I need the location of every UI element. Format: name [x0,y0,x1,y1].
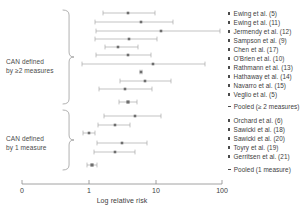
pooled-estimate-marker [126,100,129,103]
pooled-marker-icon [228,169,231,170]
group-brace [63,10,74,104]
square-bullet-icon [228,146,230,148]
legend-item-label: Pooled (≥ 2 measures) [234,103,300,110]
forest-row [120,79,171,84]
legend-item-label: Jermendy et al. (12) [234,28,292,35]
forest-row [95,20,173,25]
forest-row [104,114,161,119]
axis-tick-label: 100 [212,187,232,194]
point-estimate-marker [121,142,124,145]
legend-item-study: Toyry et al. (19) [228,144,278,153]
legend-item-study: O'Brien et al. (10) [228,55,284,64]
legend-item-label: Pooled (1 measure) [234,166,291,173]
point-estimate-marker [124,88,127,91]
group-brace [63,110,74,170]
legend-item-pooled: Pooled (≥ 2 measures) [228,103,299,112]
forest-row [95,37,157,42]
legend-item-pooled: Pooled (1 measure) [228,166,291,175]
legend-item-study: Jermendy et al. (12) [228,28,291,37]
forest-row [103,11,155,16]
legend-item-study: Ewing et al. (5) [228,10,277,19]
legend-item-study: Veglio et al. (5) [228,91,277,100]
group-label-can-2-measures: CAN defined by ≥2 measures [6,58,54,75]
point-estimate-marker [140,71,143,74]
point-estimate-marker [144,80,147,83]
pooled-estimate-marker [90,163,93,166]
x-axis-title: Log relative risk [0,197,244,204]
forest-row [97,141,147,146]
pooled-marker-icon [228,106,231,107]
axis-tick-label: 1 [79,187,99,194]
square-bullet-icon [228,39,230,41]
legend-item-label: Gerritsen et al. (21) [234,153,290,160]
forest-row [82,62,205,67]
legend-item-label: Ewing et al. (11) [234,19,281,26]
forest-row [105,45,138,50]
point-estimate-marker [127,54,130,57]
forest-row [83,131,95,136]
square-bullet-icon [228,57,230,59]
x-axis [22,180,222,184]
legend-item-label: Orchard et al. (6) [234,117,283,124]
legend-item-label: Veglio et al. (5) [234,91,277,98]
axis-tick-label: 10 [146,187,166,194]
point-estimate-marker [114,151,117,154]
legend-item-study: Gerritsen et al. (21) [228,153,290,162]
forest-row [99,87,152,92]
point-estimate-marker [88,132,91,135]
point-estimate-marker [134,115,137,118]
forest-rows [82,11,220,168]
square-bullet-icon [228,84,230,86]
legend-item-label: Sawicki et al. (18) [234,126,285,133]
forest-row [98,123,130,128]
point-estimate-marker [140,21,143,24]
legend-item-study: Sawicki et al. (20) [228,135,285,144]
legend-item-label: Navarro et al. (15) [234,82,286,89]
square-bullet-icon [228,119,230,121]
legend-item-label: Sampson et al. (9) [234,37,287,44]
legend-item-study: Chen et al. (17) [228,46,278,55]
forest-row [94,150,135,155]
square-bullet-icon [228,137,230,139]
legend-item-study: Sampson et al. (9) [228,37,287,46]
square-bullet-icon [228,21,230,23]
legend-item-study: Sawicki et al. (18) [228,126,285,135]
legend-item-study: Hathaway et al. (14) [228,73,292,82]
point-estimate-marker [128,38,131,41]
legend-item-label: O'Brien et al. (10) [234,55,285,62]
square-bullet-icon [228,30,230,32]
forest-row [96,29,220,34]
square-bullet-icon [228,48,230,50]
legend-item-label: Rathmann et al. (13) [234,64,293,71]
square-bullet-icon [228,75,230,77]
point-estimate-marker [160,30,163,33]
legend-item-label: Toyry et al. (19) [234,144,279,151]
forest-row [96,53,151,58]
point-estimate-marker [127,12,130,15]
legend-item-study: Ewing et al. (11) [228,19,280,28]
point-estimate-marker [117,46,120,49]
legend-item-label: Hathaway et al. (14) [234,73,292,80]
point-estimate-marker [152,63,155,66]
legend-item-label: Ewing et al. (5) [234,10,277,17]
square-bullet-icon [228,128,230,130]
group-label-can-1-measure: CAN defined by 1 measure [6,135,47,152]
square-bullet-icon [228,155,230,157]
square-bullet-icon [228,66,230,68]
legend-item-label: Sawicki et al. (20) [234,135,285,142]
forest-row [119,100,137,105]
legend-item-study: Rathmann et al. (13) [228,64,293,73]
group-braces [63,10,74,170]
legend-item-study: Navarro et al. (15) [228,82,286,91]
square-bullet-icon [228,12,230,14]
axis-tick-label: 0 [12,187,32,194]
forest-row [87,163,97,168]
point-estimate-marker [114,124,117,127]
square-bullet-icon [228,93,230,95]
legend-item-label: Chen et al. (17) [234,46,279,53]
legend-item-study: Orchard et al. (6) [228,117,283,126]
forest-row [140,70,143,75]
